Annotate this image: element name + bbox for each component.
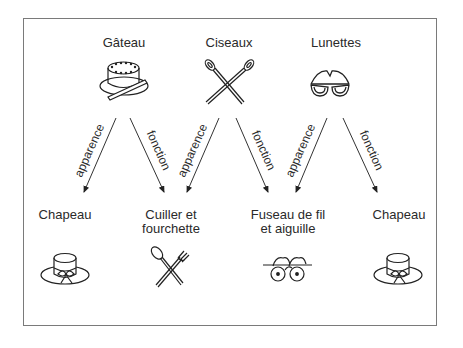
cake-icon <box>100 62 148 100</box>
hat-icon <box>41 254 89 285</box>
hat-icon <box>374 254 422 285</box>
scissors-icon <box>203 58 255 104</box>
glasses-icon <box>311 71 349 96</box>
arrow-label-fonction-3: fonction <box>357 128 387 172</box>
thread-spools-icon <box>263 258 312 281</box>
arrow-label-fonction-2: fonction <box>249 128 279 172</box>
arrow-label-fonction-1: fonction <box>144 128 174 172</box>
arrows <box>84 118 377 192</box>
spoon-fork-icon <box>149 245 189 287</box>
diagram-canvas: apparence fonction apparence fonction ap… <box>0 0 463 348</box>
